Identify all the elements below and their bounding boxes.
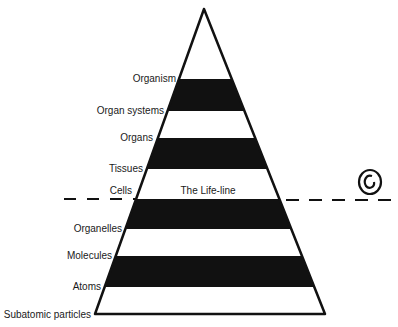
band-cells (125, 199, 291, 229)
label-tissues: Tissues (109, 163, 143, 174)
label-molecules: Molecules (67, 250, 112, 261)
label-organ-systems: Organ systems (97, 105, 164, 116)
label-organism: Organism (133, 73, 176, 84)
label-subatomic-particles: Subatomic particles (4, 309, 91, 320)
label-atoms: Atoms (73, 281, 101, 292)
band-atoms (95, 287, 325, 314)
label-organs: Organs (120, 132, 153, 143)
band-top (179, 9, 232, 79)
label-life-line: The Life-line (180, 185, 235, 196)
life-line-pyramid-diagram: Organism Organ systems Organs Tissues Ce… (0, 0, 398, 327)
label-organelles: Organelles (74, 223, 122, 234)
label-cells: Cells (110, 185, 132, 196)
band-molecules (105, 256, 314, 287)
band-organ-systems (158, 111, 255, 138)
band-organelles (116, 229, 302, 256)
band-organs (147, 138, 268, 169)
spiral-icon (359, 170, 381, 194)
